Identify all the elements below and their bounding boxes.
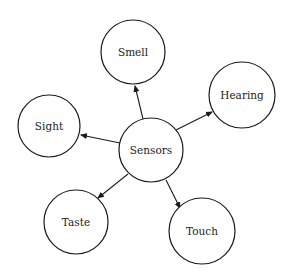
node-label-hearing: Hearing xyxy=(220,89,264,101)
sensors-diagram: Sensors Smell Hearing Sight Taste Touch xyxy=(0,0,289,276)
arrow-sensors-to-taste xyxy=(98,174,128,198)
node-smell: Smell xyxy=(101,20,165,84)
node-hearing: Hearing xyxy=(209,62,275,128)
node-taste: Taste xyxy=(44,190,108,254)
node-sensors: Sensors xyxy=(119,118,183,182)
node-label-sensors: Sensors xyxy=(130,144,172,156)
node-label-taste: Taste xyxy=(62,216,90,228)
arrow-sensors-to-smell xyxy=(135,86,143,119)
arrow-sensors-to-hearing xyxy=(176,112,212,130)
arrow-sensors-to-sight xyxy=(81,135,120,143)
node-sight: Sight xyxy=(18,95,80,157)
node-label-touch: Touch xyxy=(186,225,218,237)
node-label-smell: Smell xyxy=(118,46,149,58)
node-touch: Touch xyxy=(169,198,235,264)
arrow-sensors-to-touch xyxy=(166,180,180,208)
node-label-sight: Sight xyxy=(35,120,64,132)
